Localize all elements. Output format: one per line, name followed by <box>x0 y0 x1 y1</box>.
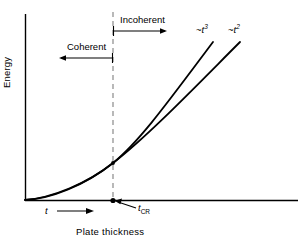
coherent-region-label: Coherent <box>67 42 106 52</box>
curve-t-squared <box>25 42 240 200</box>
curve-label-t-cubed: ~t3 <box>196 24 208 35</box>
incoherent-region-label: Incoherent <box>120 15 165 25</box>
branch-point-marker <box>111 161 115 165</box>
curve-t-cubed <box>25 42 213 200</box>
critical-thickness-subscript: CR <box>141 208 150 215</box>
critical-thickness-label: tCR <box>138 203 150 215</box>
curve-label-t-cubed-exponent: 3 <box>204 23 208 30</box>
t-cr-axis-marker <box>110 198 115 203</box>
y-axis-label: Energy <box>2 57 12 88</box>
curve-label-t-squared: ~t2 <box>228 24 240 35</box>
curve-label-t-squared-exponent: 2 <box>236 23 240 30</box>
t-direction-label: t <box>45 206 48 216</box>
figure-canvas <box>0 0 305 240</box>
incoherent-arrow <box>113 26 167 36</box>
x-axis-label: Plate thickness <box>76 227 144 237</box>
coherent-arrow <box>59 53 113 63</box>
energy-vs-plate-thickness-figure: Energy Plate thickness Incoherent Cohere… <box>0 0 305 240</box>
t-direction-symbol: t <box>45 205 48 216</box>
t-direction-arrow <box>57 208 94 214</box>
